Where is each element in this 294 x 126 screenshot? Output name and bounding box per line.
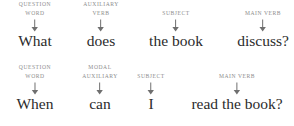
constituent-word: does [83, 32, 119, 50]
constituent-label: AuxiliaryVerb [83, 0, 119, 18]
down-arrow-icon [233, 82, 242, 95]
constituent: Main Verbread the book? [191, 63, 282, 113]
constituent-label-line: Verb [83, 9, 119, 18]
constituent-label-line: Main Verb [191, 72, 282, 81]
constituent-word: I [137, 95, 164, 113]
constituent-label-line: Word [18, 9, 52, 18]
down-arrow-icon [258, 19, 267, 32]
constituent-label-line: Word [16, 72, 53, 81]
constituent: QuestionWordWhat [18, 0, 52, 50]
down-arrow-icon [30, 19, 39, 32]
constituent-label-line: Question [18, 0, 52, 9]
constituent-word: What [18, 32, 52, 50]
constituent-label: ModalAuxiliary [82, 63, 118, 81]
constituent-label: Main Verb [191, 63, 282, 81]
constituent-label: QuestionWord [16, 63, 53, 81]
constituent-label-line: Subject [137, 72, 164, 81]
constituent-label-line: Question [16, 63, 53, 72]
down-arrow-icon [30, 82, 39, 95]
constituent-label: Subject [149, 0, 203, 18]
constituent: SubjectI [137, 63, 164, 113]
constituent-word: can [82, 95, 118, 113]
constituent-word: the book [149, 32, 203, 50]
constituent-label-line: Main Verb [237, 9, 289, 18]
constituent-label: Subject [137, 63, 164, 81]
constituent-label-line: Subject [149, 9, 203, 18]
down-arrow-icon [146, 82, 155, 95]
constituent-label: QuestionWord [18, 0, 52, 18]
constituent-label: Main Verb [237, 0, 289, 18]
down-arrow-icon [172, 19, 181, 32]
constituent-label-line: Auxiliary [82, 72, 118, 81]
grammar-diagram: QuestionWordWhatAuxiliaryVerbdoes Subjec… [0, 0, 294, 126]
constituent-word: read the book? [191, 95, 282, 113]
constituent-word: discuss? [237, 32, 289, 50]
down-arrow-icon [96, 82, 105, 95]
constituent: Main Verbdiscuss? [237, 0, 289, 50]
sentence-row: QuestionWordWhatAuxiliaryVerbdoes Subjec… [0, 0, 294, 63]
constituent-label-line: Auxiliary [83, 0, 119, 9]
down-arrow-icon [97, 19, 106, 32]
sentence-row: QuestionWordWhenModalAuxiliarycan Subjec… [0, 63, 294, 126]
constituent-label-line: Modal [82, 63, 118, 72]
constituent: ModalAuxiliarycan [82, 63, 118, 113]
constituent-word: When [16, 95, 53, 113]
constituent: AuxiliaryVerbdoes [83, 0, 119, 50]
constituent: Subjectthe book [149, 0, 203, 50]
constituent: QuestionWordWhen [16, 63, 53, 113]
